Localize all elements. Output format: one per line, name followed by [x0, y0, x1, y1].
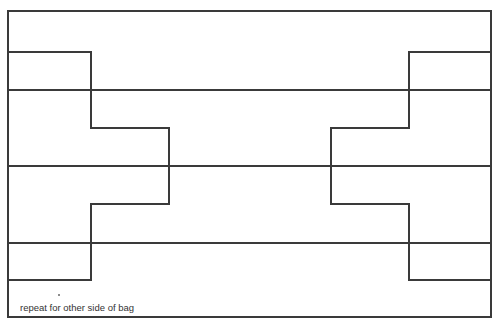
pattern-note: repeat for other side of bag [20, 302, 134, 313]
stray-mark [58, 294, 60, 296]
outer-border [8, 11, 491, 317]
pattern-diagram [0, 0, 498, 328]
